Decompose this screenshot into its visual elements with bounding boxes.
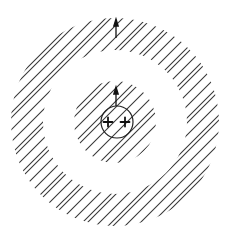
- hatch-line: [0, 0, 69, 69]
- hatch-line: [0, 0, 185, 185]
- hatch-line: [0, 0, 18, 18]
- hatch-line: [0, 0, 159, 159]
- hatch-line: [0, 0, 141, 141]
- hatch-line: [0, 0, 129, 129]
- hatch-line: [0, 0, 114, 114]
- arrows: [114, 19, 118, 106]
- hatch-line: [0, 0, 37, 37]
- field-diagram: [0, 0, 230, 238]
- hatch-line: [0, 0, 211, 211]
- hatch-line: [0, 0, 30, 30]
- hatch-line: [0, 0, 50, 50]
- hatch-line: [0, 0, 127, 127]
- hatch-line: [0, 0, 204, 204]
- hatch-line: [0, 0, 42, 42]
- hatch-line: [0, 0, 108, 108]
- outer-ring-hatching: [0, 0, 230, 238]
- hatch-line: [0, 0, 1, 1]
- hatch-line: [0, 0, 140, 140]
- hatch-line: [0, 0, 25, 25]
- hatch-line: [0, 0, 54, 54]
- hatch-line: [0, 0, 100, 100]
- hatch-line: [0, 0, 182, 182]
- hatch-line: [0, 0, 5, 5]
- hatch-line: [0, 0, 82, 82]
- hatch-line: [0, 0, 71, 71]
- hatch-line: [0, 0, 124, 124]
- hatch-line: [0, 0, 13, 13]
- hatch-line: [0, 0, 230, 235]
- plus-charge-icon: [121, 118, 130, 127]
- hatch-line: [0, 0, 194, 194]
- hatch-line: [0, 0, 63, 63]
- hatch-line: [0, 0, 223, 223]
- hatch-line: [0, 0, 31, 31]
- hatch-line: [0, 0, 170, 170]
